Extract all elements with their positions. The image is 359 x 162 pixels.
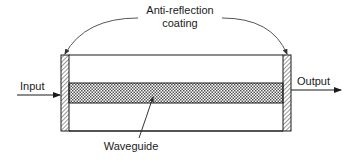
waveguide-diagram: Anti-reflection coating Input Output Wav… <box>0 0 359 162</box>
output-label: Output <box>297 75 330 87</box>
waveguide-core <box>69 83 283 103</box>
coating-label-line1: Anti-reflection <box>146 4 213 16</box>
left-coating-callout-arc <box>65 18 138 54</box>
waveguide-label: Waveguide <box>104 140 159 152</box>
left-anti-reflection-coating <box>61 55 69 131</box>
right-coating-callout-arc <box>222 18 287 54</box>
right-anti-reflection-coating <box>283 55 291 131</box>
input-label: Input <box>20 80 44 92</box>
coating-label-line2: coating <box>162 17 197 29</box>
